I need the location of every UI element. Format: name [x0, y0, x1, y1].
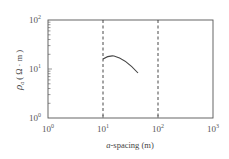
x-tick-label-1000: 103 [207, 123, 219, 134]
y-tick-label-1: 100 [29, 112, 41, 123]
x-tick-label-10: 101 [97, 123, 109, 134]
y-axis-label: ρa( Ω · m ) [12, 50, 25, 91]
data-series-curve [103, 56, 138, 73]
x-axis-label: a-spacing (m) [106, 140, 154, 150]
chart: 102 101 100 100 101 102 103 a-spacing (m… [0, 0, 229, 159]
plot-area [48, 20, 213, 118]
y-tick-label-10: 101 [29, 63, 41, 74]
y-minor-ticks [48, 22, 52, 103]
y-tick-label-100: 102 [29, 14, 41, 25]
x-tick-label-1: 100 [42, 123, 54, 134]
x-tick-label-100: 102 [152, 123, 164, 134]
